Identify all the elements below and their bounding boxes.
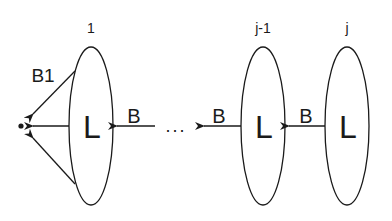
edge-label-b: B: [127, 105, 140, 127]
arrow-diagonal-icon: [33, 138, 75, 184]
node-j-1: j-1 L: [241, 20, 285, 205]
chain-diagram: 1 L j-1 L j L B B ... B B1: [0, 0, 392, 221]
edge-label-b: B: [212, 105, 225, 127]
edge-ellipsis-to-node-1: B: [117, 105, 155, 127]
node-j-1-index-label: j-1: [254, 20, 271, 36]
edge-label-b: B: [299, 105, 312, 127]
node-j-1-inner-label: L: [255, 109, 273, 145]
ellipsis: ...: [165, 116, 186, 136]
node-j-index-label: j: [344, 20, 348, 36]
node-1-inner-label: L: [83, 109, 101, 145]
node-1: 1 L: [69, 20, 113, 205]
target-point: [18, 123, 23, 128]
node-1-index-label: 1: [87, 20, 95, 36]
edge-label-b1: B1: [31, 65, 54, 86]
node-j-inner-label: L: [339, 109, 357, 145]
node-j: j L: [325, 20, 369, 205]
edge-j-to-j-1: B: [289, 105, 325, 127]
edge-j-1-to-ellipsis: B: [204, 105, 241, 127]
